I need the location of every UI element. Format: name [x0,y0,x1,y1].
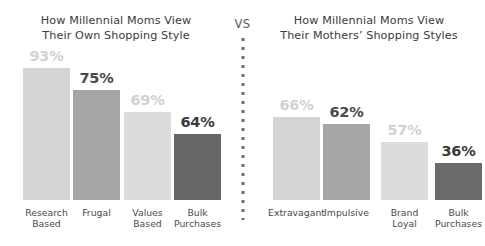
bar-group: 62% Impulsive [323,124,370,200]
bar-value-label: 57% [374,122,435,138]
plot-area-right: 66% Extravagant 62% Impulsive 57% Brand … [253,0,485,246]
comparison-bar-chart: How Millennial Moms View Their Own Shopp… [0,0,485,246]
bar-rect [435,163,482,200]
bar-rect [323,124,370,200]
plot-area-left: 93% Research Based 75% Frugal 69% Values… [0,0,232,246]
bar-rect [124,112,171,200]
bar-group: 64% Bulk Purchases [174,134,221,200]
bar-group: 66% Extravagant [273,117,320,200]
bar-value-label: 62% [316,104,377,120]
chart-panel-mothers-shopping-styles: How Millennial Moms View Their Mothers’ … [253,0,485,246]
bar-group: 36% Bulk Purchases [435,163,482,200]
bar-value-label: 75% [66,70,127,86]
bar-value-label: 93% [16,48,77,64]
bar-group: 69% Values Based [124,112,171,200]
bar-group: 75% Frugal [73,90,120,200]
bar-group: 93% Research Based [23,68,70,200]
bar-category-label: Bulk Purchases [165,200,230,229]
bar-value-label: 64% [167,114,228,130]
bar-value-label: 36% [428,143,485,159]
bar-rect [273,117,320,200]
bar-rect [381,142,428,200]
bar-category-label: Impulsive [314,200,379,218]
versus-divider: VS [232,0,253,246]
bar-category-label: Bulk Purchases [426,200,485,229]
bar-rect [23,68,70,200]
bar-rect [73,90,120,200]
bar-value-label: 69% [117,92,178,108]
vertical-dotted-divider-icon [241,38,244,220]
bar-group: 57% Brand Loyal [381,142,428,200]
bar-rect [174,134,221,200]
chart-panel-own-shopping-style: How Millennial Moms View Their Own Shopp… [0,0,232,246]
versus-label: VS [232,17,253,31]
